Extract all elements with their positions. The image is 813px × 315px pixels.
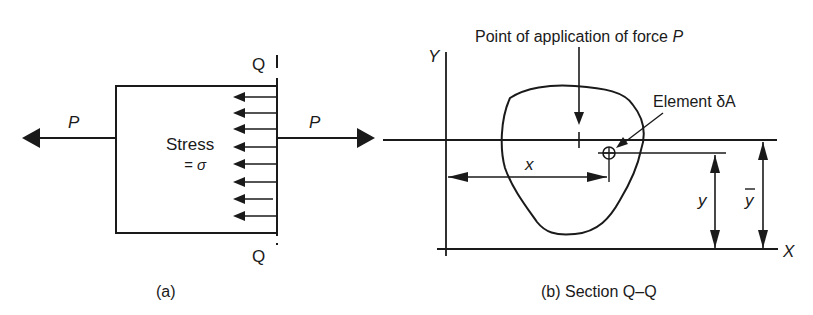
y-axis-label: Y xyxy=(428,47,441,66)
ybar-dimension xyxy=(758,142,768,248)
cross-section-shape xyxy=(502,86,644,235)
force-point-label: Point of application of force P xyxy=(475,28,683,45)
force-label-left: P xyxy=(68,113,80,132)
y-dim-label: y xyxy=(697,191,708,210)
y-dimension xyxy=(710,155,720,248)
stress-diagram: P P Stress = σ Q Q (a) xyxy=(0,0,813,315)
element-leader-arrow xyxy=(616,113,663,148)
stress-value: = σ xyxy=(184,156,207,173)
ybar-dim-label: y xyxy=(744,191,755,210)
force-point-arrow xyxy=(574,47,584,148)
caption-a: (a) xyxy=(156,283,176,300)
caption-b: (b) Section Q–Q xyxy=(541,283,657,300)
x-dim-label: x xyxy=(524,155,534,174)
section-label-top: Q xyxy=(252,55,265,74)
x-axis-label: X xyxy=(782,242,795,261)
section-label-bottom: Q xyxy=(252,247,265,266)
force-label-right: P xyxy=(309,113,321,132)
stress-label: Stress xyxy=(166,135,214,154)
element-label: Element δA xyxy=(653,93,736,110)
force-arrow-right xyxy=(277,128,375,148)
stress-arrows xyxy=(233,92,276,221)
figure-b: Point of application of force P Element … xyxy=(383,28,795,300)
figure-a: P P Stress = σ Q Q (a) xyxy=(22,55,375,300)
